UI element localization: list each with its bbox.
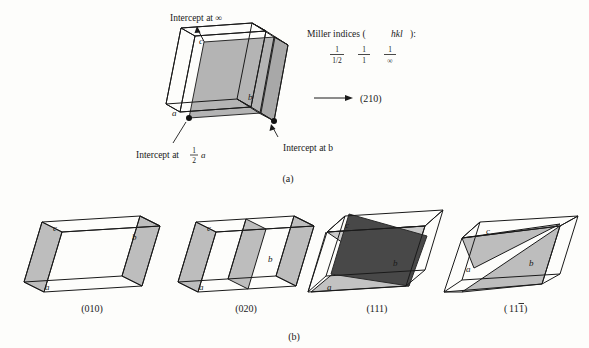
panel-b: a b c (010) a b c (020): [24, 210, 578, 343]
cell-111-index-label: (111): [367, 303, 388, 315]
intercept-dot-half-a: [186, 115, 192, 121]
cell-111bar-axis-a: a: [466, 264, 471, 274]
cell-111bar: [444, 216, 578, 292]
half-numerator: 1: [192, 146, 196, 155]
reciprocal-2-numerator: 1: [388, 45, 392, 54]
miller-heading-suffix: ):: [410, 29, 416, 40]
leader-b: [270, 124, 279, 137]
reciprocal-1: 1 1: [358, 45, 370, 65]
cell-010-axis-a: a: [45, 282, 50, 292]
label-intercept-half-a-axis: a: [201, 150, 206, 160]
label-intercept-b: Intercept at b: [283, 143, 333, 153]
cell-111bar-axis-c: c: [486, 226, 490, 236]
cell-111-axis-c: c: [345, 220, 349, 230]
cell-111-axis-b: b: [393, 258, 398, 268]
reciprocal-0-denominator: 1/2: [332, 56, 342, 65]
axis-label-b: b: [248, 92, 253, 102]
cell-111bar-index-label: ( 11 1 ): [504, 303, 527, 315]
cell-111bar-index-close: ): [524, 303, 527, 315]
caption-a: (a): [282, 173, 293, 185]
unit-cell-a: [166, 23, 288, 121]
reciprocals-row: 1 1/2 1 1 1 ∞: [330, 45, 396, 65]
reciprocal-2-denominator: ∞: [387, 56, 392, 65]
reciprocal-0-numerator: 1: [335, 45, 339, 54]
intercept-dot-b: [271, 118, 277, 124]
panel-a: Intercept at ∞: [136, 13, 416, 185]
miller-heading-italic: hkl: [391, 29, 403, 39]
label-intercept-infinity: Intercept at ∞: [170, 13, 222, 23]
cell-020-axis-c: c: [207, 223, 211, 233]
right-arrow-icon: [314, 95, 353, 101]
cell-020: [178, 216, 314, 292]
cell-020-index-label: (020): [235, 303, 257, 315]
axis-label-c: c: [199, 36, 203, 46]
cell-111: [308, 210, 443, 292]
miller-heading-prefix: Miller indices (: [307, 29, 366, 40]
cell-111bar-index-open: (: [504, 303, 508, 315]
caption-b: (b): [288, 331, 300, 343]
reciprocal-1-denominator: 1: [362, 56, 366, 65]
half-denominator: 2: [192, 156, 196, 165]
cell-111-axis-a: a: [327, 282, 332, 292]
cell-020-axis-b: b: [268, 254, 273, 264]
label-intercept-half-a-prefix: Intercept at: [136, 150, 179, 160]
reciprocal-1-numerator: 1: [362, 45, 366, 54]
miller-indices-heading: Miller indices ( hkl ):: [307, 29, 416, 40]
reciprocal-2: 1 ∞: [384, 45, 396, 65]
leader-half-a: [173, 122, 186, 143]
cell-010-axis-c: c: [53, 223, 57, 233]
cell-010-axis-b: b: [132, 232, 137, 242]
label-intercept-half-a: Intercept at 1 2 a: [136, 146, 206, 165]
cell-010: [24, 216, 160, 292]
cell-111bar-index-digits: 11: [509, 303, 519, 314]
cell-010-index-label: (010): [81, 303, 103, 315]
cell-111bar-axis-b: b: [529, 258, 534, 268]
cell-020-axis-a: a: [199, 282, 204, 292]
miller-result-index: (210): [360, 93, 382, 105]
axis-label-a: a: [172, 108, 177, 118]
reciprocal-0: 1 1/2: [330, 45, 344, 65]
miller-indices-figure: Intercept at ∞: [0, 0, 589, 348]
